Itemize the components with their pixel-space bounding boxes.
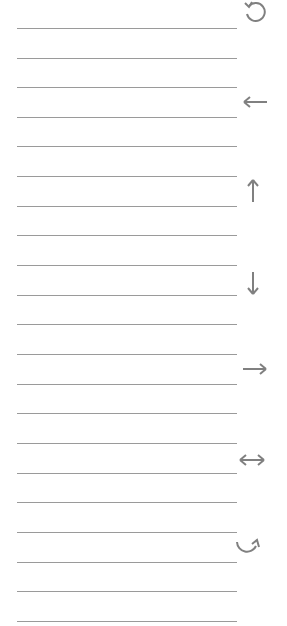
- ruled-line: [17, 532, 237, 533]
- ruled-line: [17, 443, 237, 444]
- ruled-line: [17, 146, 237, 147]
- arrow-down-icon[interactable]: [238, 268, 268, 298]
- ruled-line: [17, 473, 237, 474]
- arrow-left-icon[interactable]: [240, 87, 270, 117]
- ruled-line: [17, 87, 237, 88]
- ruled-line: [17, 176, 237, 177]
- arrow-up-icon[interactable]: [238, 176, 268, 206]
- curved-arrow-icon[interactable]: [234, 534, 264, 564]
- ruled-line: [17, 58, 237, 59]
- ruled-line: [17, 265, 237, 266]
- ruled-line: [17, 591, 237, 592]
- ruled-line: [17, 206, 237, 207]
- refresh-icon[interactable]: [240, 0, 270, 27]
- ruled-line: [17, 384, 237, 385]
- ruled-line: [17, 235, 237, 236]
- arrow-left-right-icon[interactable]: [237, 445, 267, 475]
- ruled-line: [17, 28, 237, 29]
- ruled-line: [17, 562, 237, 563]
- ruled-line: [17, 502, 237, 503]
- ruled-line: [17, 413, 237, 414]
- ruled-line: [17, 621, 237, 622]
- ruled-line: [17, 324, 237, 325]
- ruled-line: [17, 117, 237, 118]
- ruled-line: [17, 295, 237, 296]
- arrow-right-icon[interactable]: [240, 354, 270, 384]
- ruled-line: [17, 354, 237, 355]
